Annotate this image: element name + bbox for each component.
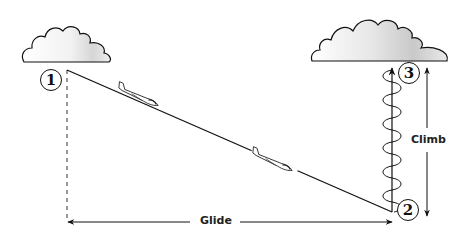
- climb-label: Climb: [411, 134, 446, 146]
- thermal-spiral: [383, 68, 401, 212]
- glide-label: Glide: [200, 215, 232, 227]
- marker-1: 1: [40, 69, 62, 91]
- marker-2: 2: [397, 199, 419, 221]
- right-cloud: [311, 20, 447, 61]
- left-cloud: [22, 27, 110, 62]
- glider-icon: [116, 82, 165, 111]
- glider-icon: [250, 147, 299, 176]
- glide-path-line: [67, 70, 392, 212]
- marker-3: 3: [398, 62, 420, 84]
